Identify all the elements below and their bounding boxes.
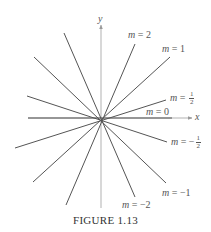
slope-line — [27, 96, 167, 142]
label-m-half: m = 12 — [170, 91, 194, 106]
label-m-neg-2: m = −2 — [122, 200, 151, 210]
slope-line — [66, 44, 135, 205]
y-axis-label: y — [98, 14, 102, 24]
label-m-0: m = 0 — [146, 107, 169, 117]
label-m-neg-1: m = −1 — [162, 188, 191, 198]
figure-caption: FIGURE 1.13 — [0, 214, 211, 226]
slope-line — [15, 100, 166, 148]
label-m-2: m = 2 — [128, 30, 151, 40]
x-axis-label: x — [195, 112, 199, 122]
slope-line — [64, 33, 135, 197]
label-m-1: m = 1 — [162, 44, 185, 54]
label-m-neg-half: m = −12 — [171, 135, 201, 150]
slope-line — [34, 57, 166, 183]
